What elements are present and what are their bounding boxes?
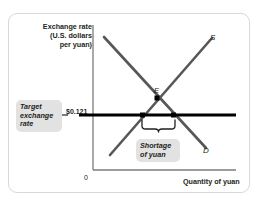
- demand-curve-label: D: [203, 146, 209, 155]
- equilibrium-marker: [155, 96, 160, 101]
- origin-label: 0: [84, 174, 88, 181]
- figure-root: Exchange rate (U.S. dollars per yuan) Qu…: [0, 0, 260, 203]
- y-axis-title: Exchange rate (U.S. dollars per yuan): [30, 22, 92, 50]
- target-exchange-rate-callout: Target exchange rate: [16, 100, 62, 132]
- equilibrium-point-label: E: [154, 86, 159, 95]
- y-axis-title-line-1: Exchange rate: [30, 22, 92, 31]
- target-rate-value-label: $0.121: [66, 108, 87, 115]
- y-axis-title-line-3: per yuan): [30, 40, 92, 49]
- x-axis-title: Quantity of yuan: [183, 177, 240, 186]
- quantity-supplied-marker: [140, 113, 145, 118]
- shortage-callout: Shortage of yuan: [136, 139, 180, 162]
- shortage-brace-icon: [142, 120, 175, 132]
- supply-curve-label: S: [210, 33, 215, 42]
- quantity-demanded-marker: [171, 113, 176, 118]
- y-axis-title-line-2: (U.S. dollars: [30, 31, 92, 40]
